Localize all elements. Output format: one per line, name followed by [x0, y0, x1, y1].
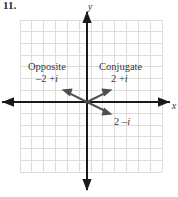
x-axis-arrow-right [158, 97, 170, 107]
y-axis-arrow-up [82, 11, 91, 23]
x-axis-arrow-left [2, 97, 14, 107]
complex-plane-figure: 11. [0, 0, 178, 197]
y-axis-arrow-down [82, 179, 91, 191]
conjugate-title-label: Conjugate [99, 61, 142, 72]
original-value-label: 2 –i [114, 116, 130, 127]
opposite-value-real: –2 + [36, 73, 55, 84]
grid-lines [20, 20, 162, 172]
opposite-value-imag: i [55, 73, 58, 84]
graph-canvas [0, 0, 178, 197]
conjugate-value-real: 2 + [111, 73, 125, 84]
opposite-title-label: Opposite [28, 61, 66, 72]
conjugate-value-label: 2 +i [111, 73, 128, 84]
x-axis-label: x [172, 101, 176, 111]
conjugate-value-imag: i [125, 73, 128, 84]
original-value-real: 2 – [114, 116, 127, 127]
opposite-value-label: –2 +i [36, 73, 58, 84]
y-axis-label: y [88, 2, 92, 12]
original-value-imag: i [127, 116, 130, 127]
